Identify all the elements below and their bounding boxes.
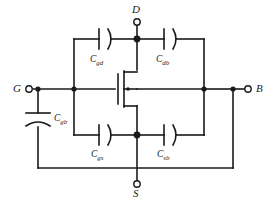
capacitor-label-cgs: Cgs xyxy=(91,150,103,162)
cgs-sub: gs xyxy=(97,154,103,161)
terminal-label-source: S xyxy=(133,188,139,199)
junction-body-return xyxy=(230,86,235,91)
terminal-label-gate: G xyxy=(13,83,21,94)
junction-source-node xyxy=(134,132,141,139)
junction-drain-node xyxy=(134,36,141,43)
csb-sub: sb xyxy=(163,154,169,161)
terminal-label-drain: D xyxy=(132,4,140,15)
cdb-sub: db xyxy=(162,59,169,66)
terminal-marker-body xyxy=(245,86,251,92)
cdb-plate-curved xyxy=(173,29,176,49)
junction-gate-column xyxy=(71,86,76,91)
terminal-markers xyxy=(26,19,251,187)
capacitor-label-cgd: Cgd xyxy=(90,55,103,67)
capacitor-label-cdb: Cdb xyxy=(156,55,169,67)
cgb-plate-curved xyxy=(26,122,50,126)
cgs-plate-curved xyxy=(108,125,111,145)
cgd-plate-curved xyxy=(108,29,111,49)
capacitor-label-csb: Csb xyxy=(157,150,169,162)
cgb-sub: gb xyxy=(60,118,67,125)
circuit-diagram: G D S B Cgd Cdb Cgs Csb Cgb xyxy=(0,0,274,203)
schematic-canvas xyxy=(0,0,274,203)
capacitor-label-cgb: Cgb xyxy=(54,114,67,126)
junction-body-column xyxy=(201,86,206,91)
junction-gate-branch xyxy=(35,86,40,91)
cgd-sub: gd xyxy=(96,59,103,66)
terminal-label-body: B xyxy=(256,83,263,94)
junction-device-body xyxy=(126,87,130,91)
csb-plate-curved xyxy=(173,125,176,145)
terminal-marker-drain xyxy=(134,19,140,25)
terminal-marker-gate xyxy=(26,86,32,92)
